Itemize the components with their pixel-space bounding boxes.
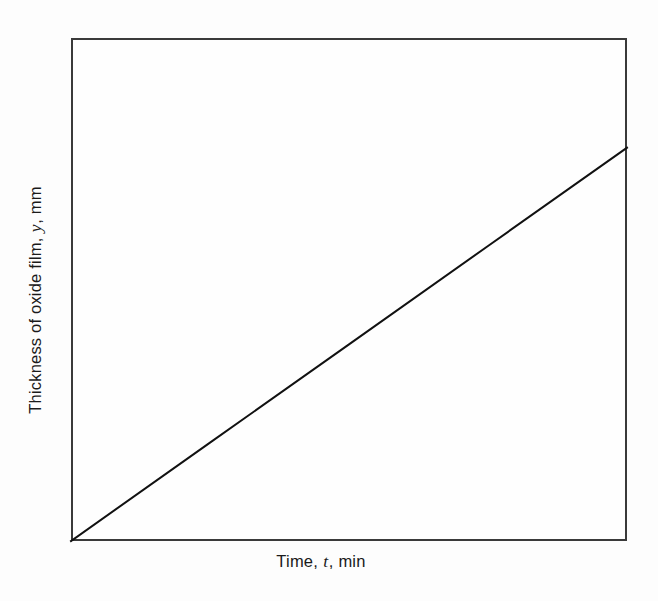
- x-axis-title: Time, t, min: [0, 551, 658, 572]
- y-axis-title-symbol: y: [25, 224, 45, 233]
- data-line-linear-oxidation: [71, 148, 627, 541]
- y-axis-title-container: Thickness of oxide film, y, mm: [0, 0, 70, 601]
- y-axis-title: Thickness of oxide film, y, mm: [25, 186, 46, 414]
- x-axis-title-prefix: Time,: [276, 552, 318, 570]
- oxidation-rate-figure: Time, t, min Thickness of oxide film, y,…: [0, 0, 658, 601]
- y-axis-title-prefix: Thickness of oxide film,: [26, 237, 44, 413]
- plot-canvas: [71, 38, 627, 541]
- x-axis-title-suffix: , min: [329, 552, 366, 570]
- y-axis-title-suffix: , mm: [26, 186, 44, 223]
